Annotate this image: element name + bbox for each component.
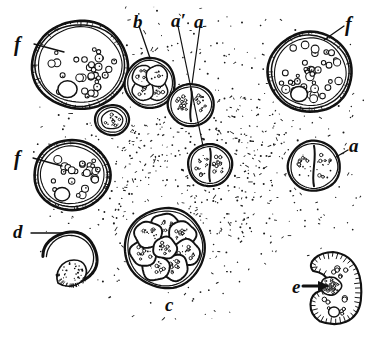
figure-label-d-left: d — [13, 222, 23, 241]
illustration-canvas — [0, 0, 380, 343]
leader-a-top — [192, 26, 200, 84]
figure-label-c-bottom: c — [165, 295, 173, 314]
specimen-division — [188, 144, 232, 186]
figure-label-f-top-left: f — [14, 34, 21, 54]
figure-label-a-prime-top: a′ — [171, 11, 186, 30]
figure-label-a-right: a — [349, 136, 359, 155]
specimen-division — [95, 105, 129, 135]
leader-a-right — [336, 150, 348, 157]
engraving-plate: fba′affadce — [0, 0, 380, 343]
figure-label-a-top: a — [194, 12, 204, 31]
figure-label-f-mid-left: f — [14, 148, 21, 168]
figure-label-e-bottom-right: e — [292, 277, 300, 296]
specimen-division — [168, 84, 214, 126]
figure-label-f-top-right: f — [345, 14, 352, 34]
figure-label-b-top: b — [133, 12, 143, 31]
specimen-cyst — [34, 140, 111, 210]
specimen-division — [288, 141, 340, 191]
specimen-cyst — [268, 32, 353, 112]
specimen-layer — [32, 21, 361, 324]
specimen-division — [125, 208, 205, 288]
specimen-cyst — [32, 21, 128, 109]
specimen-ruptured-cyst — [43, 232, 97, 287]
